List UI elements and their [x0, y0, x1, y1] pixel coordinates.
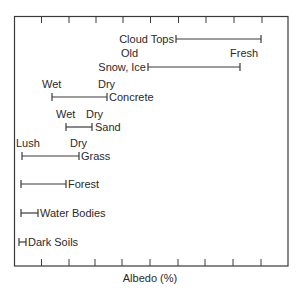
label-sand-dry: Dry	[86, 108, 104, 120]
label-grass-dry: Dry	[70, 137, 88, 149]
label-water-bodies: Water Bodies	[40, 207, 106, 219]
range-water-bodies: Water Bodies	[21, 207, 106, 219]
top-ticks	[42, 17, 263, 24]
label-snow-ice: Snow, Ice	[98, 61, 146, 73]
x-axis-title: Albedo (%)	[123, 272, 177, 284]
label-sand-wet: Wet	[56, 108, 75, 120]
label-cloud-tops: Cloud Tops	[119, 33, 174, 45]
range-dark-soils: Dark Soils	[19, 236, 79, 248]
label-concrete-wet: Wet	[42, 78, 61, 90]
label-forest: Forest	[68, 178, 99, 190]
label-grass-lush: Lush	[16, 137, 40, 149]
albedo-range-chart: Cloud Tops Old Fresh Snow, Ice Wet Dry C…	[0, 0, 300, 291]
label-sand: Sand	[95, 121, 121, 133]
range-sand: Wet Dry Sand	[56, 108, 121, 133]
label-concrete: Concrete	[109, 91, 154, 103]
label-grass: Grass	[81, 150, 111, 162]
range-forest: Forest	[21, 178, 99, 190]
label-snow-fresh: Fresh	[230, 47, 258, 59]
bottom-ticks	[42, 259, 262, 266]
label-dark-soils: Dark Soils	[28, 236, 79, 248]
range-grass: Lush Dry Grass	[16, 137, 111, 162]
label-concrete-dry: Dry	[98, 78, 116, 90]
range-cloud-tops: Cloud Tops	[119, 33, 261, 45]
label-snow-old: Old	[121, 47, 138, 59]
range-snow-ice: Old Fresh Snow, Ice	[98, 47, 258, 73]
range-concrete: Wet Dry Concrete	[42, 78, 154, 103]
